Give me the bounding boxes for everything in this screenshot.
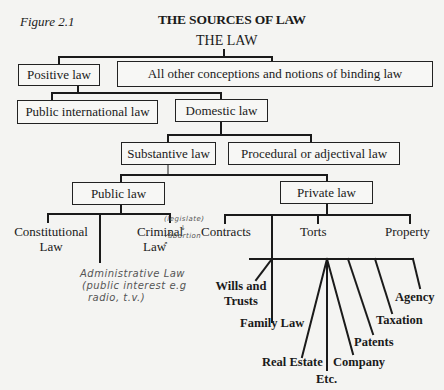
figure-title: THE SOURCES OF LAW — [158, 12, 306, 28]
leaf-family-law: Family Law — [240, 316, 304, 331]
root-node-the-law: THE LAW — [196, 33, 257, 49]
handwritten-line: Administrative Law — [80, 268, 187, 280]
node-label: Public international law — [25, 104, 149, 120]
leaf-etc: Etc. — [316, 372, 337, 387]
node-other-conceptions: All other conceptions and notions of bin… — [117, 61, 433, 87]
figure-label: Figure 2.1 — [20, 14, 74, 30]
handwritten-arrow-down: ↓ — [180, 224, 186, 232]
node-domestic-law: Domestic law — [175, 99, 268, 122]
leaf-line: Law — [14, 239, 88, 254]
node-label: Public law — [91, 186, 146, 202]
node-label: Positive law — [27, 67, 91, 83]
leaf-property: Property — [385, 224, 430, 239]
tree-connector-lines — [0, 0, 444, 390]
handwritten-arrow-icon: ↗ — [162, 240, 168, 248]
leaf-line: Wills and — [214, 279, 268, 294]
node-label: Procedural or adjectival law — [241, 146, 387, 162]
handwritten-line: (public interest e.g — [80, 280, 187, 292]
node-label: All other conceptions and notions of bin… — [148, 66, 403, 82]
leaf-line: Trusts — [214, 294, 268, 309]
node-substantive-law: Substantive law — [121, 142, 216, 165]
node-label: Domestic law — [186, 103, 258, 119]
leaf-agency: Agency — [395, 290, 435, 305]
leaf-line: Law — [130, 239, 190, 254]
node-positive-law: Positive law — [18, 64, 100, 86]
leaf-patents: Patents — [354, 335, 394, 350]
node-label: Private law — [297, 185, 356, 201]
leaf-torts: Torts — [300, 224, 327, 239]
node-label: Substantive law — [127, 146, 210, 162]
leaf-company: Company — [333, 355, 385, 370]
handwritten-line: radio, t.v.) — [80, 292, 187, 304]
handwritten-administrative-law: Administrative Law (public interest e.g … — [80, 268, 187, 304]
leaf-taxation: Taxation — [376, 313, 423, 328]
node-public-international-law: Public international law — [17, 100, 158, 124]
leaf-real-estate: Real Estate — [262, 355, 323, 370]
leaf-constitutional-law: Constitutional Law — [14, 224, 88, 254]
leaf-wills-and-trusts: Wills and Trusts — [214, 279, 268, 309]
handwritten-legislate: (legislate) — [164, 215, 205, 223]
node-procedural-law: Procedural or adjectival law — [228, 142, 400, 165]
leaf-contracts: Contracts — [201, 224, 251, 239]
handwritten-abortion: abortion — [168, 232, 201, 240]
node-private-law: Private law — [280, 181, 373, 204]
leaf-line: Constitutional — [14, 224, 88, 239]
node-public-law: Public law — [72, 182, 165, 205]
